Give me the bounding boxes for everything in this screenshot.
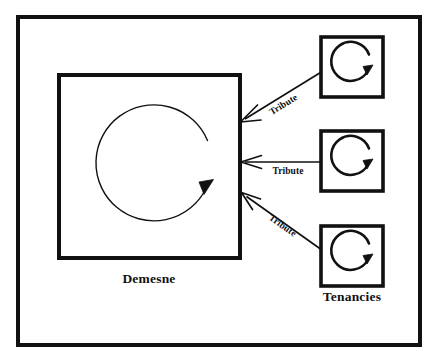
tenancy-unit-2-circular-arrow-icon <box>331 136 369 175</box>
tenancy-unit-1-circular-arrow-icon <box>331 42 369 81</box>
flow-bottom-arrowhead-icon <box>242 193 261 210</box>
tenancies-caption: Tenancies <box>323 289 381 304</box>
flow-bottom-label: Tribute <box>267 213 298 239</box>
flow-middle-label: Tribute <box>272 166 303 176</box>
demesne-circular-arrow-icon <box>96 105 208 221</box>
demesne-circular-arrowhead-icon <box>199 180 214 195</box>
tenancy-unit-box-3 <box>321 226 383 286</box>
diagram-canvas: Tribute Tribute Tribute Demesne Tenancie… <box>0 0 438 364</box>
flow-top-line <box>245 73 321 120</box>
demesne-box <box>59 75 240 258</box>
tenancy-unit-3-circular-arrow-icon <box>331 231 369 270</box>
diagram-svg: Tribute Tribute Tribute Demesne Tenancie… <box>0 0 438 364</box>
flow-top-arrowhead-icon <box>241 105 262 122</box>
tenancy-unit-box-2 <box>321 131 383 191</box>
tenancy-unit-box-1 <box>321 37 383 97</box>
demesne-caption: Demesne <box>122 271 175 286</box>
